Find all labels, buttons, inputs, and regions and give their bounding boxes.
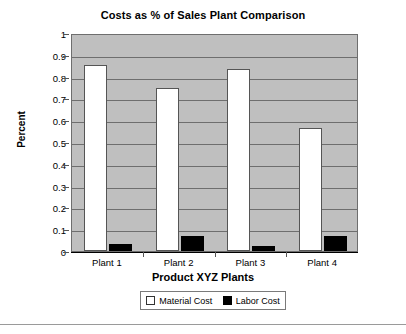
bar-material-cost — [227, 69, 250, 251]
gridline — [72, 122, 357, 123]
y-tick-label: 0.8 — [28, 72, 66, 83]
chart-legend: Material CostLabor Cost — [140, 291, 286, 310]
legend-label: Material Cost — [159, 296, 212, 306]
legend-entry: Material Cost — [146, 296, 212, 306]
x-tick-label: Plant 1 — [92, 257, 122, 268]
chart-title: Costs as % of Sales Plant Comparison — [0, 9, 406, 21]
y-tick-mark — [63, 165, 69, 166]
legend-entry: Labor Cost — [223, 296, 280, 306]
bar-material-cost — [84, 65, 107, 251]
x-tick-label: Plant 4 — [307, 257, 337, 268]
y-tick-mark — [63, 208, 69, 209]
bar-labor-cost — [181, 236, 204, 251]
x-tick-label: Plant 3 — [236, 257, 266, 268]
bar-material-cost — [156, 88, 179, 252]
legend-swatch-icon — [146, 296, 155, 305]
bar-labor-cost — [109, 244, 132, 251]
y-axis-ticks: 00.10.20.30.40.50.60.70.80.91 — [22, 34, 66, 252]
y-tick-mark — [63, 187, 69, 188]
y-tick-mark — [63, 230, 69, 231]
x-tick-mark — [286, 252, 287, 257]
y-tick-label: 0.2 — [28, 203, 66, 214]
x-tick-mark — [143, 252, 144, 257]
y-tick-mark — [63, 143, 69, 144]
gridline — [72, 79, 357, 80]
legend-label: Labor Cost — [236, 296, 280, 306]
y-tick-label: 0 — [28, 247, 66, 258]
chart-figure: Costs as % of Sales Plant Comparison Per… — [0, 0, 406, 334]
y-tick-mark — [63, 78, 69, 79]
y-tick-label: 0.5 — [28, 138, 66, 149]
bar-labor-cost — [324, 236, 347, 251]
gridline — [72, 100, 357, 101]
x-axis-title: Product XYZ Plants — [0, 271, 406, 283]
y-tick-label: 0.4 — [28, 159, 66, 170]
y-tick-label: 0.6 — [28, 116, 66, 127]
x-tick-label: Plant 2 — [164, 257, 194, 268]
y-tick-mark — [63, 99, 69, 100]
plot-area — [71, 34, 358, 252]
y-tick-label: 0.3 — [28, 181, 66, 192]
y-tick-mark — [63, 34, 69, 35]
y-tick-label: 0.9 — [28, 50, 66, 61]
y-tick-mark — [63, 121, 69, 122]
bar-labor-cost — [252, 246, 275, 251]
bottom-divider — [0, 324, 406, 325]
y-tick-label: 1 — [28, 29, 66, 40]
y-tick-label: 0.7 — [28, 94, 66, 105]
y-tick-label: 0.1 — [28, 225, 66, 236]
legend-swatch-icon — [223, 296, 232, 305]
y-tick-mark — [63, 56, 69, 57]
bar-material-cost — [299, 128, 322, 251]
gridline — [72, 57, 357, 58]
y-tick-mark — [63, 252, 69, 253]
x-tick-mark — [215, 252, 216, 257]
